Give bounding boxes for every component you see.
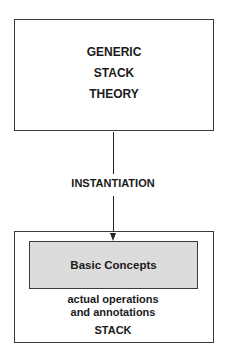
instantiation-label: INSTANTIATION <box>0 177 226 190</box>
theory-title-line-1: GENERIC <box>15 42 213 63</box>
annotation-line-1: actual operations <box>0 293 226 306</box>
instantiation-arrow-upper-line <box>113 132 114 174</box>
annotations-text: actual operations and annotations <box>0 293 226 319</box>
theory-title-line-2: STACK <box>15 63 213 84</box>
basic-concepts-box: Basic Concepts <box>29 241 198 289</box>
basic-concepts-label: Basic Concepts <box>70 259 156 271</box>
annotation-line-2: and annotations <box>0 306 226 319</box>
generic-stack-theory-box: GENERIC STACK THEORY <box>14 19 214 131</box>
stack-label: STACK <box>0 324 226 337</box>
arrow-head-icon <box>110 233 116 241</box>
instantiation-arrow-lower-line <box>113 196 114 234</box>
theory-box-title: GENERIC STACK THEORY <box>15 42 213 105</box>
theory-title-line-3: THEORY <box>15 84 213 105</box>
